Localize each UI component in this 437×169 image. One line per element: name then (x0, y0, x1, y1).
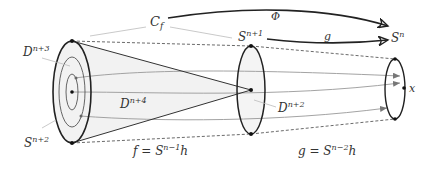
label-f-equation: f = Sn−1h (132, 143, 188, 158)
label-sn2: Sn+2 (24, 135, 49, 150)
right-circle (385, 57, 406, 121)
label-dn2: Dn+2 (277, 100, 305, 115)
label-cf: Cf (150, 14, 165, 31)
label-g-equation: g = Sn−2h (298, 143, 356, 158)
cone-cylinder-diagram: Cf Φ g Sn Sn+1 Dn+3 Dn+4 Dn+2 Sn+2 x f =… (0, 0, 437, 169)
label-phi: Φ (271, 10, 280, 23)
label-sn1: Sn+1 (238, 29, 263, 44)
label-sn: Sn (391, 30, 404, 45)
label-dn3: Dn+3 (22, 44, 50, 59)
label-x: x (409, 82, 416, 95)
label-g-arrow: g (324, 30, 331, 43)
